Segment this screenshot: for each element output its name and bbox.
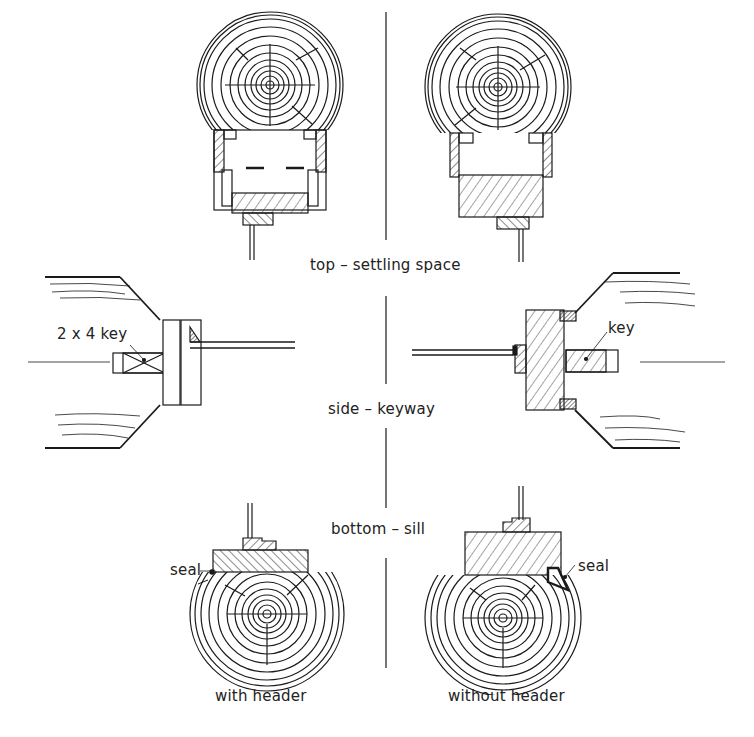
callout-seal-left: seal: [170, 561, 201, 579]
label-bottom-sill: bottom – sill: [331, 520, 425, 538]
top-right-frame: [450, 133, 552, 262]
label-with-header: with header: [215, 687, 307, 705]
label-without-header: without header: [448, 687, 565, 705]
side-right-log: [412, 273, 725, 448]
callout-2x4-key: 2 x 4 key: [57, 325, 127, 343]
bottom-left-sill: [200, 503, 308, 574]
bottom-right-sill: [465, 486, 575, 590]
label-top-settling-space: top – settling space: [310, 256, 461, 274]
callout-key: key: [608, 319, 635, 337]
side-left-log: [28, 277, 295, 448]
top-left-header-frame: [214, 130, 326, 260]
callout-seal-right: seal: [578, 557, 609, 575]
label-side-keyway: side – keyway: [328, 400, 435, 418]
diagram-canvas: [0, 0, 754, 737]
